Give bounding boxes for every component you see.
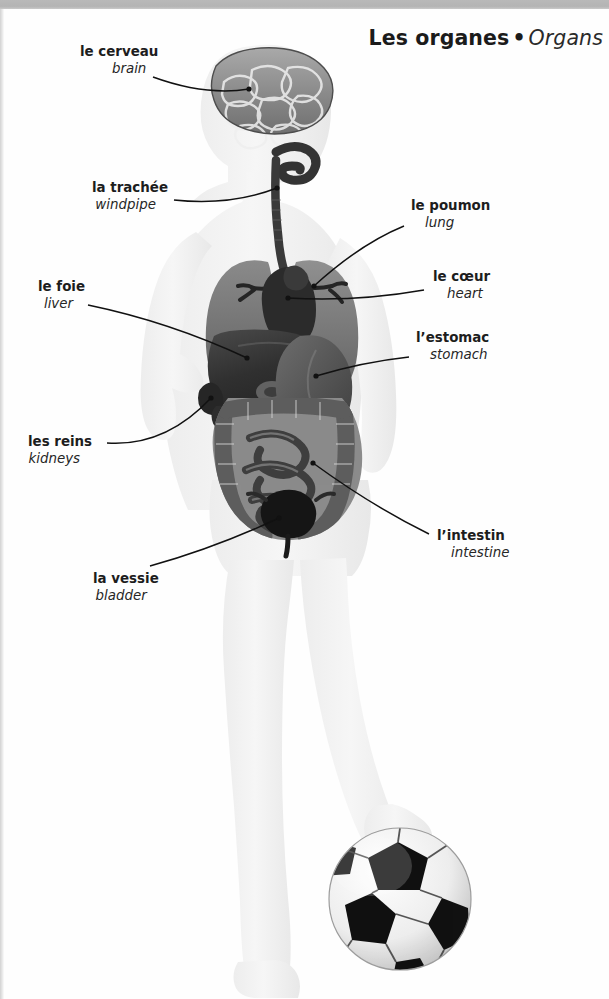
label-bladder: la vessie bladder xyxy=(93,571,159,604)
label-windpipe-en: windpipe xyxy=(92,197,168,214)
title-french: Les organes xyxy=(369,26,510,50)
label-bladder-en: bladder xyxy=(93,588,159,605)
label-intestine-en: intestine xyxy=(437,545,509,562)
label-brain-en: brain xyxy=(80,61,158,78)
label-kidneys: les reins kidneys xyxy=(28,434,92,467)
label-lung-fr: le poumon xyxy=(411,198,490,215)
soccer-ball xyxy=(316,828,471,990)
label-stomach: l’estomac stomach xyxy=(416,330,489,363)
label-brain-fr: le cerveau xyxy=(80,44,158,61)
label-intestine: l’intestin intestine xyxy=(437,528,509,561)
title-english: Organs xyxy=(529,26,603,50)
label-stomach-en: stomach xyxy=(416,347,489,364)
label-liver: le foie liver xyxy=(38,279,85,312)
title-separator: • xyxy=(509,26,528,50)
label-kidneys-en: kidneys xyxy=(28,451,92,468)
label-lung: le poumon lung xyxy=(411,198,490,231)
label-windpipe-fr: la trachée xyxy=(92,180,168,197)
label-heart-fr: le cœur xyxy=(433,269,490,286)
label-liver-en: liver xyxy=(38,296,85,313)
anatomy-poster: Les organes•Organs le cerveau brain la t… xyxy=(0,0,609,999)
label-stomach-fr: l’estomac xyxy=(416,330,489,347)
label-windpipe: la trachée windpipe xyxy=(92,180,168,213)
label-lung-en: lung xyxy=(411,215,490,232)
label-bladder-fr: la vessie xyxy=(93,571,159,588)
anatomy-illustration xyxy=(0,0,609,999)
label-intestine-fr: l’intestin xyxy=(437,528,509,545)
label-brain: le cerveau brain xyxy=(80,44,158,77)
page-title: Les organes•Organs xyxy=(369,26,603,50)
label-liver-fr: le foie xyxy=(38,279,85,296)
label-heart-en: heart xyxy=(433,286,490,303)
label-kidneys-fr: les reins xyxy=(28,434,92,451)
label-heart: le cœur heart xyxy=(433,269,490,302)
